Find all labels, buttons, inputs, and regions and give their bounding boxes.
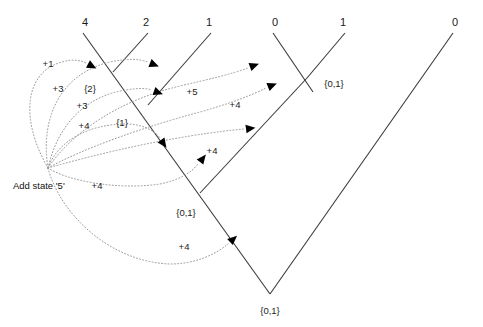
- cost-plus-4-bottom: +4: [179, 242, 190, 252]
- edge-internal-right: [200, 78, 307, 193]
- arrow-to-node-2-head: [148, 59, 160, 70]
- state-set-1: {1}: [116, 118, 128, 128]
- state-set-01-mid: {0,1}: [176, 208, 196, 218]
- arrow-to-node-4-mid-head: [245, 124, 256, 134]
- edge-leaf-1b: [307, 33, 345, 78]
- add-state-caption: Add state '5': [13, 181, 65, 191]
- leaf-1a: 1: [206, 17, 212, 28]
- state-set-01-right: {0,1}: [324, 79, 344, 89]
- arrow-to-root-4-head: [227, 233, 240, 246]
- arrow-to-root-4-curve: [48, 168, 228, 264]
- arrow-to-node-4-upper-curve: [48, 124, 160, 168]
- edge-leaf-0b-to-root: [270, 33, 453, 294]
- cost-plus-3-lower: +3: [77, 101, 88, 111]
- diagram-canvas: 421010 {2}{1}{0,1}{0,1}{0,1} +1+3+3+4+5+…: [0, 0, 483, 327]
- cost-plus-4-mid: +4: [207, 146, 218, 156]
- tree-diagram-svg: [0, 0, 483, 327]
- arrow-to-node-5-curve: [48, 68, 248, 168]
- state-set-2: {2}: [84, 84, 96, 94]
- arrow-to-node-4-left-curve: [48, 164, 198, 186]
- cost-plus-1: +1: [43, 59, 54, 69]
- leaf-2: 2: [143, 17, 149, 28]
- leaf-1b: 1: [340, 17, 346, 28]
- edge-leaf-0a: [273, 33, 313, 92]
- state-set-01-root: {0,1}: [260, 306, 280, 316]
- leaf-0a: 0: [272, 17, 278, 28]
- arrow-to-node-5-head: [249, 60, 261, 71]
- arrow-to-leaf-4-curve: [30, 60, 86, 168]
- leaf-4: 4: [82, 17, 88, 28]
- tree-edges-group: [83, 33, 453, 294]
- cost-plus-4-right: +4: [230, 100, 241, 110]
- arrow-to-node-2-curve: [46, 59, 148, 168]
- leaf-0b: 0: [452, 17, 458, 28]
- edge-leaf-2: [113, 33, 148, 72]
- cost-plus-3-upper: +3: [53, 84, 64, 94]
- cost-plus-4-upper: +4: [79, 121, 90, 131]
- cost-plus-5: +5: [187, 87, 198, 97]
- cost-plus-4-left: +4: [92, 181, 103, 191]
- arrow-curves-group: [30, 59, 266, 264]
- arrow-to-node-4-right-head: [266, 80, 278, 91]
